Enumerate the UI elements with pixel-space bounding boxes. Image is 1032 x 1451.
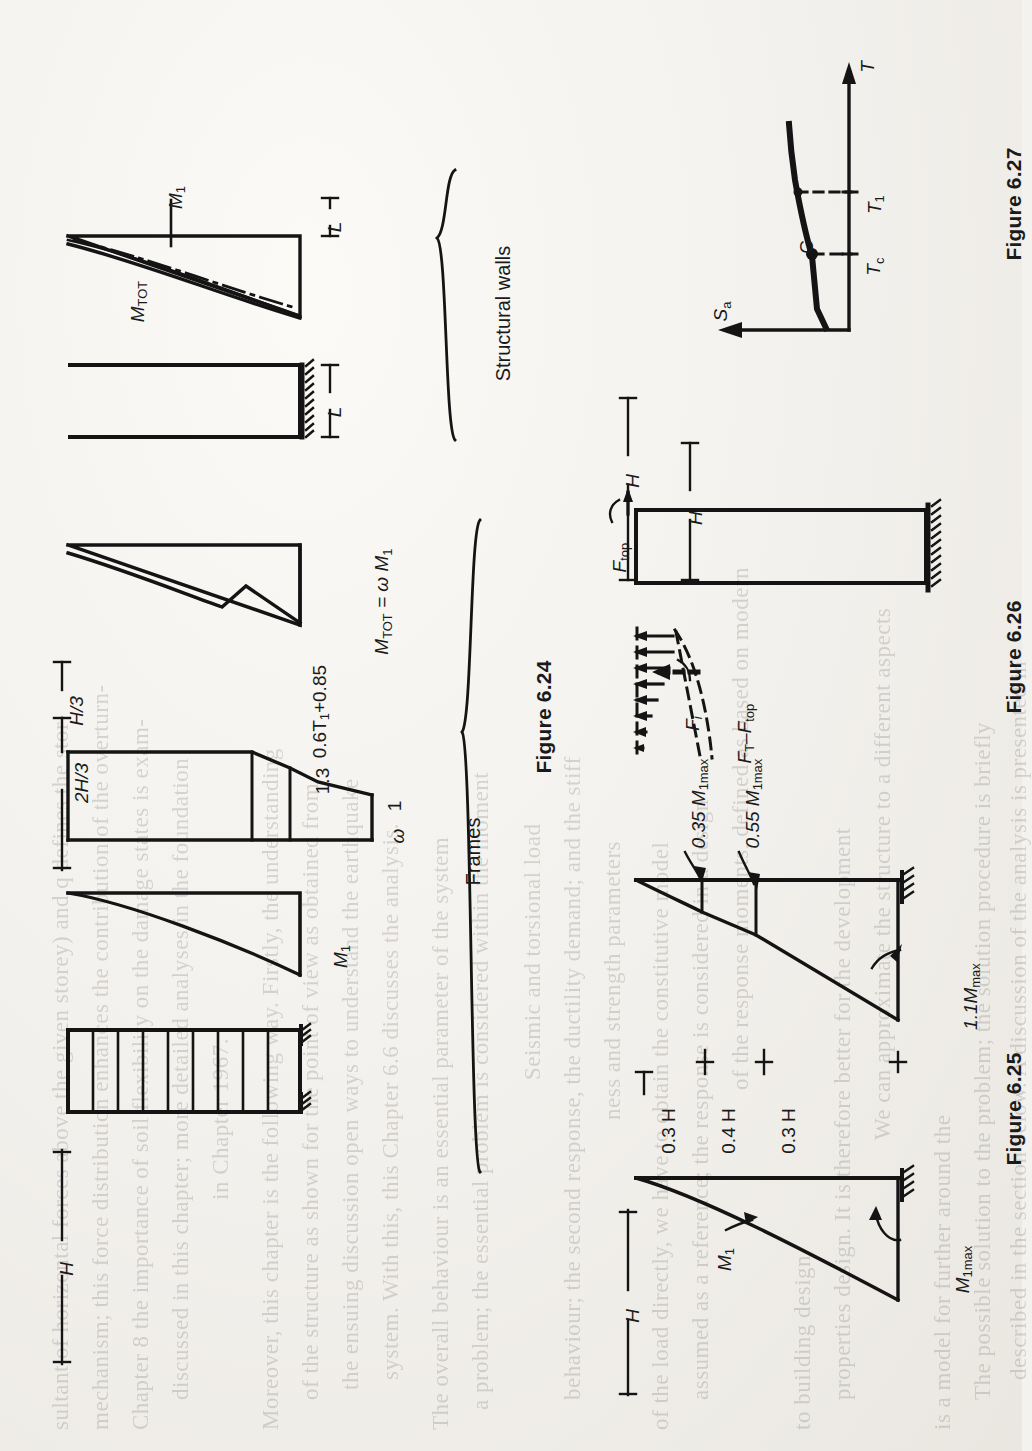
figure-caption-6-26: Figure 6.26 (1002, 600, 1026, 713)
label-6-25-seg-0-3H-top: 0.3 H (658, 1108, 680, 1153)
figure-caption-6-25: Figure 6.25 (1002, 1052, 1026, 1165)
label-omega-1-3: 1.3 (312, 768, 334, 794)
label-6-25-seg-0-3H-bot: 0.3 H (778, 1108, 800, 1153)
label-frame-H: H (56, 1262, 78, 1276)
label-6-25-0-55-M1max: 0.55 M1max (742, 759, 765, 849)
label-wall-MTOT: MTOT (127, 281, 150, 322)
caption-text-6-25: Figure 6.25 (1002, 1052, 1025, 1165)
label-6-27-axis-Sa: Sa (710, 302, 733, 322)
label-6-26-FT-minus-Ftop: FT–Ftop (734, 704, 757, 764)
label-wall-M1: M1 (165, 186, 188, 209)
label-frame-H-over-3: H/3 (66, 696, 88, 726)
label-6-25-M1: M1 (714, 1248, 737, 1271)
label-6-27-tick-Tc: Tc (863, 258, 886, 276)
label-6-26-F-i: Fi (682, 716, 705, 730)
label-6-25-seg-0-4H: 0.4 H (718, 1108, 740, 1153)
label-6-26-F-top: Ftop (609, 543, 632, 573)
caption-text-6-27: Figure 6.27 (1002, 147, 1025, 260)
label-6-26-Hi: Hi (685, 508, 708, 525)
label-6-26-H: H (622, 474, 644, 488)
label-wall-dim-L-moment: L (324, 222, 346, 233)
group-label-frames: Frames (462, 818, 485, 886)
label-omega-1: 1 (384, 801, 406, 812)
label-6-25-H: H (622, 1309, 644, 1323)
label-omega-symbol: ω (387, 829, 409, 844)
group-label-structural-walls: Structural walls (492, 246, 515, 382)
label-6-25-1-1-Mmax: 1.1Mmax (960, 963, 983, 1030)
label-6-27-tick-T1: T1 (864, 195, 887, 214)
label-6-27-axis-T: T (857, 61, 879, 73)
caption-text-6-26: Figure 6.26 (1002, 600, 1025, 713)
label-frame-2H-over-3: 2H/3 (71, 763, 93, 803)
label-6-27-point-C: C (796, 240, 818, 254)
structural-walls-text: Structural walls (492, 246, 514, 382)
figure-caption-6-24: Figure 6.24 (532, 660, 556, 773)
label-frame-MTOT-equation: MTOT = ω M1 (371, 549, 394, 655)
figure-caption-6-27: Figure 6.27 (1002, 147, 1026, 260)
frames-text: Frames (462, 818, 484, 886)
caption-text-6-24: Figure 6.24 (532, 660, 555, 773)
label-wall-dim-L-element: L (324, 407, 346, 418)
label-6-25-M1max: M1max (952, 1246, 975, 1293)
label-omega-0-6T1: 0.6T1+0.85 (309, 665, 332, 758)
label-frame-M1: M1 (330, 945, 353, 968)
label-6-25-0-35-M1max: 0.35 M1max (688, 759, 711, 849)
